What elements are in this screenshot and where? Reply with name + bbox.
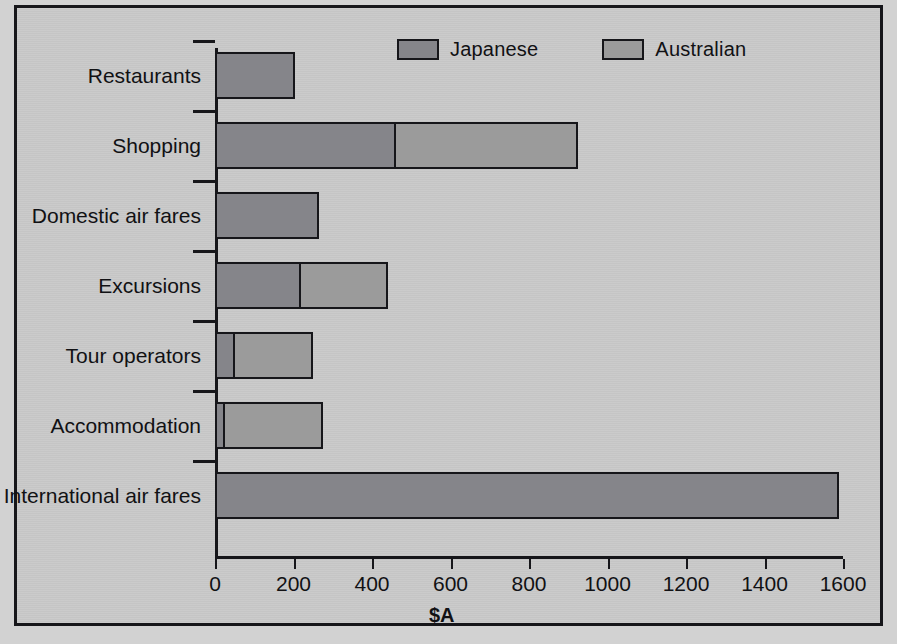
category-label: Accommodation <box>50 414 201 438</box>
bar-row <box>215 262 388 309</box>
bar-row <box>215 122 578 169</box>
bar-row <box>215 332 313 379</box>
x-axis-tick-label: 600 <box>433 572 468 596</box>
bar-segment-australian <box>394 122 578 169</box>
bar-segment-australian <box>299 262 387 309</box>
x-axis-tick <box>686 559 688 569</box>
x-axis-tick <box>608 559 610 569</box>
x-axis-tick-label: 800 <box>511 572 546 596</box>
category-label: Excursions <box>98 274 201 298</box>
x-axis-tick-label: 400 <box>354 572 389 596</box>
x-axis-tick-label: 1000 <box>584 572 631 596</box>
bar-row <box>215 402 323 449</box>
bar-row <box>215 192 319 239</box>
x-axis-title: $A <box>429 604 455 627</box>
x-axis-tick-label: 0 <box>209 572 221 596</box>
plot-area: 02004006008001000120014001600 Restaurant… <box>215 28 855 556</box>
category-label: Shopping <box>112 134 201 158</box>
y-axis-tick <box>193 110 215 113</box>
x-axis-tick <box>294 559 296 569</box>
category-label: International air fares <box>4 484 201 508</box>
bar-segment-japanese <box>215 262 301 309</box>
y-axis-tick <box>193 460 215 463</box>
x-axis-tick <box>843 559 845 569</box>
category-label: Domestic air fares <box>32 204 201 228</box>
x-axis-tick <box>765 559 767 569</box>
chart-screenshot: JapaneseAustralian 020040060080010001200… <box>0 0 897 644</box>
bar-row <box>215 472 839 519</box>
bar-segment-japanese <box>215 192 319 239</box>
x-axis-tick-label: 1600 <box>820 572 867 596</box>
bar-segment-australian <box>223 402 323 449</box>
x-axis-tick <box>529 559 531 569</box>
x-axis-tick-label: 1200 <box>663 572 710 596</box>
x-axis-tick-label: 1400 <box>741 572 788 596</box>
x-axis-tick <box>451 559 453 569</box>
x-axis-tick <box>215 559 217 569</box>
bar-segment-australian <box>233 332 313 379</box>
bar-segment-japanese <box>215 122 396 169</box>
bar-row <box>215 52 295 99</box>
y-axis-tick <box>193 320 215 323</box>
category-label: Restaurants <box>88 64 201 88</box>
x-axis-tick <box>372 559 374 569</box>
bar-segment-japanese <box>215 472 839 519</box>
y-axis-tick <box>193 40 215 43</box>
category-label: Tour operators <box>66 344 201 368</box>
x-axis-tick-label: 200 <box>276 572 311 596</box>
bar-segment-japanese <box>215 52 295 99</box>
y-axis-tick <box>193 250 215 253</box>
figure-frame: JapaneseAustralian 020040060080010001200… <box>14 5 883 626</box>
y-axis-tick <box>193 180 215 183</box>
y-axis-tick <box>193 390 215 393</box>
